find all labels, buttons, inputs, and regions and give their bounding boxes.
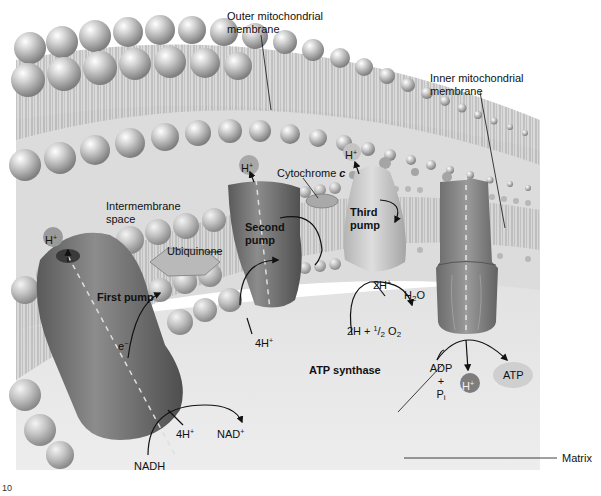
label-line: Third [350, 206, 380, 219]
label-line: Inner mitochondrial [430, 72, 524, 85]
charge: + [190, 428, 194, 435]
label-line: Second [245, 221, 285, 234]
figure-number: 10 [2, 483, 12, 493]
h-text: 4H [176, 428, 190, 440]
label-text: Cytochrome [277, 167, 336, 179]
h-ion-label-second: H+ [241, 159, 253, 175]
two-h-label: 2H+ [373, 276, 391, 292]
water-label: H2O [404, 289, 425, 305]
nad-label: NAD+ [217, 425, 244, 441]
atp-label: ATP [503, 369, 524, 382]
four-h-label-first: 4H+ [176, 425, 194, 441]
label-atp-synthase: ATP synthase [309, 364, 381, 377]
o-text: O [416, 289, 425, 301]
charge: + [269, 337, 273, 344]
diagram-canvas: Outer mitochondrial membrane Inner mitoc… [0, 0, 601, 496]
cytochrome-c-molecule [306, 194, 338, 208]
charge: + [470, 380, 474, 387]
h-text: H [45, 234, 53, 246]
charge: + [53, 234, 57, 241]
adp-text: ADP [428, 362, 454, 375]
h-ion-label-first: H+ [45, 231, 57, 247]
h-text: H [462, 380, 470, 392]
label-intermembrane-space: Intermembrane space [106, 200, 181, 226]
p-text: P [436, 388, 443, 400]
nadh-label: NADH [134, 460, 165, 473]
label-third-pump: Third pump [350, 206, 380, 232]
label-second-pump: Second pump [245, 221, 285, 247]
h-text: 2H [373, 279, 387, 291]
h-text: H [345, 149, 353, 161]
label-outer-mitochondrial-membrane: Outer mitochondrial membrane [227, 10, 323, 36]
label-matrix: Matrix [562, 452, 592, 465]
charge: + [353, 149, 357, 156]
label-line: space [106, 213, 181, 226]
adp-pi-label: ADP + Pi [428, 362, 454, 404]
h-ion-label-matrix: H+ [462, 377, 474, 393]
subscript: 2 [397, 330, 401, 339]
atp-synthase-protein [436, 175, 498, 340]
subscript: i [444, 393, 446, 402]
label-letter: c [339, 167, 345, 179]
charge: − [124, 340, 128, 347]
h-text: 4H [255, 337, 269, 349]
four-h-label-second: 4H+ [255, 334, 273, 350]
label-line: pump [245, 234, 285, 247]
h-text: H [241, 162, 249, 174]
label-first-pump: First pump [97, 291, 154, 304]
electron-label: e− [118, 337, 128, 353]
h-ion-label-third: H+ [345, 146, 357, 162]
oxygen-equation-label: 2H + 1/2 O2 [347, 322, 401, 341]
fraction-num: 1 [374, 325, 378, 332]
o-text: O [385, 325, 397, 337]
label-line: Outer mitochondrial [227, 10, 323, 23]
charge: + [387, 279, 391, 286]
label-inner-mitochondrial-membrane: Inner mitochondrial membrane [430, 72, 524, 98]
charge: + [249, 162, 253, 169]
label-line: Intermembrane [106, 200, 181, 213]
label-ubiquinone: Ubiquinone [167, 245, 223, 258]
charge: + [240, 428, 244, 435]
nad-text: NAD [217, 428, 240, 440]
plus-sign: + [428, 375, 454, 388]
label-line: membrane [430, 85, 524, 98]
label-line: membrane [227, 23, 323, 36]
prefix: 2H + [347, 325, 374, 337]
h-text: H [404, 289, 412, 301]
label-line: pump [350, 219, 380, 232]
label-cytochrome-c: Cytochrome c [277, 167, 345, 180]
